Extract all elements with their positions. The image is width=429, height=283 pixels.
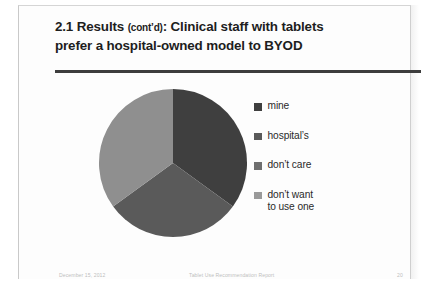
legend-item[interactable]: don’t care — [254, 159, 404, 172]
page-title: 2.1 Results (cont’d): Clinical staff wit… — [55, 18, 423, 54]
legend-item-label: don’t care — [268, 159, 312, 172]
title-divider — [55, 70, 421, 73]
legend-swatch-icon — [254, 103, 262, 111]
legend-swatch-icon — [254, 192, 262, 200]
legend-swatch-icon — [254, 162, 262, 170]
title-line-2: prefer a hospital-owned model to BYOD — [55, 37, 423, 55]
legend-item[interactable]: don’t wantto use one — [254, 189, 404, 214]
title-main: 2.1 Results — [55, 19, 124, 34]
legend-item-label: hospital’s — [268, 130, 309, 143]
title-line-1: 2.1 Results (cont’d): Clinical staff wit… — [55, 18, 423, 37]
footer-document-title: Tablet Use Recommendation Report — [189, 272, 274, 278]
legend-item-label: mine — [268, 100, 290, 113]
legend-item-label: don’t wantto use one — [268, 189, 315, 214]
legend-item[interactable]: hospital’s — [254, 130, 404, 143]
footer-page-number: 20 — [397, 272, 403, 278]
title-contd: (cont’d) — [128, 22, 163, 33]
title-rest: : Clinical staff with tablets — [163, 19, 324, 34]
chart-legend: minehospital’sdon’t caredon’t wantto use… — [254, 100, 404, 231]
slide-footer: December 15, 2012 Tablet Use Recommendat… — [37, 270, 429, 283]
legend-item[interactable]: mine — [254, 100, 404, 113]
footer-date: December 15, 2012 — [59, 272, 105, 278]
legend-swatch-icon — [254, 133, 262, 141]
